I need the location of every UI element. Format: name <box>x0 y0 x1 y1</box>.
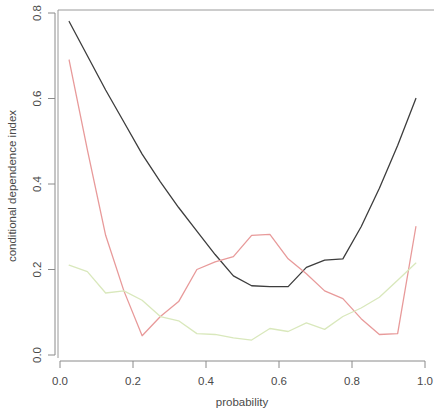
y-tick-label: 0.2 <box>31 262 43 278</box>
x-tick-label: 1.0 <box>417 375 433 387</box>
x-axis-title: probability <box>216 396 269 408</box>
y-tick-label: 0.0 <box>31 347 43 363</box>
y-axis-title: conditional dependence index <box>6 110 18 262</box>
x-tick-label: 0.2 <box>125 375 141 387</box>
y-tick-label: 0.4 <box>31 175 43 192</box>
chart-container: 0.00.20.40.60.8 0.00.20.40.60.81.0 proba… <box>0 0 436 418</box>
y-tick-label: 0.8 <box>31 5 43 21</box>
x-tick-label: 0.8 <box>344 375 360 387</box>
x-tick-label: 0.4 <box>198 375 215 387</box>
y-tick-label: 0.6 <box>31 91 43 107</box>
x-tick-label: 0.0 <box>52 375 68 387</box>
x-tick-label: 0.6 <box>271 375 287 387</box>
chart-background <box>0 0 436 418</box>
line-chart: 0.00.20.40.60.8 0.00.20.40.60.81.0 proba… <box>0 0 436 418</box>
